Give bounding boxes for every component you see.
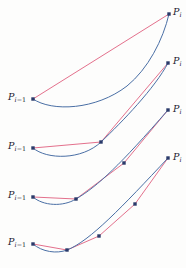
- row-3-points-0: [31, 195, 34, 198]
- row-3-points-3: [166, 108, 169, 111]
- label-start-row-1: Pi−1: [8, 92, 26, 102]
- label-start-subop-row-2: −1: [17, 145, 26, 153]
- label-start-symbol-row-2: P: [8, 140, 14, 151]
- row-1-points-0: [31, 97, 34, 100]
- row-4-points-1: [65, 248, 68, 251]
- row-1-points-1: [167, 12, 170, 15]
- row-2-points-2: [166, 61, 169, 64]
- row-4-curve: [33, 158, 168, 252]
- row-4-points-0: [31, 242, 34, 245]
- label-end-symbol-row-1: P: [173, 6, 179, 17]
- curve-diagram-svg: [0, 0, 186, 268]
- label-start-symbol-row-4: P: [8, 236, 14, 247]
- label-end-symbol-row-3: P: [173, 103, 179, 114]
- label-end-row-1: Pi: [173, 7, 181, 17]
- row-3-curve: [33, 110, 168, 204]
- row-3-points-1: [74, 197, 77, 200]
- row-2-polygon: [33, 63, 168, 148]
- label-start-row-2: Pi−1: [8, 141, 26, 151]
- label-start-symbol-row-3: P: [8, 189, 14, 200]
- label-start-subop-row-1: −1: [17, 96, 26, 104]
- row-1-curve: [33, 14, 169, 107]
- label-end-sub-row-3: i: [180, 108, 182, 116]
- label-end-row-3: Pi: [173, 104, 181, 114]
- label-end-row-4: Pi: [173, 152, 181, 162]
- row-2-points-0: [31, 146, 34, 149]
- figure-canvas: Pi−1 Pi Pi−1 Pi Pi−1 Pi Pi−1 Pi: [0, 0, 186, 268]
- label-end-row-2: Pi: [173, 56, 181, 66]
- label-start-row-3: Pi−1: [8, 190, 26, 200]
- label-start-row-4: Pi−1: [8, 237, 26, 247]
- row-2-points-1: [99, 140, 102, 143]
- label-start-subop-row-4: −1: [17, 241, 26, 249]
- label-start-symbol-row-1: P: [8, 91, 14, 102]
- row-4-points-4: [166, 156, 169, 159]
- label-end-symbol-row-4: P: [173, 151, 179, 162]
- label-end-sub-row-4: i: [180, 156, 182, 164]
- label-end-symbol-row-2: P: [173, 55, 179, 66]
- row-4-points-3: [133, 202, 136, 205]
- row-4-points-2: [97, 234, 100, 237]
- label-end-sub-row-1: i: [180, 11, 182, 19]
- label-end-sub-row-2: i: [180, 60, 182, 68]
- label-start-subop-row-3: −1: [17, 194, 26, 202]
- row-3-points-2: [122, 161, 125, 164]
